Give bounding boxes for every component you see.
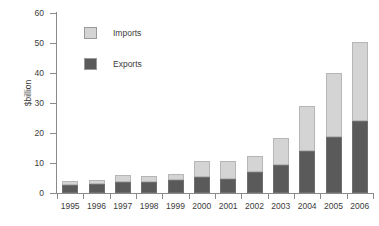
- bar-segment-exports: [141, 182, 157, 193]
- bar-group: [168, 174, 184, 194]
- bar-segment-exports: [326, 137, 342, 193]
- bar-group: [141, 176, 157, 193]
- x-axis-tick: [294, 193, 295, 199]
- bar-segment-exports: [352, 121, 368, 193]
- x-axis-tick: [162, 193, 163, 199]
- bar-segment-imports: [299, 106, 315, 151]
- y-axis-tick: [50, 103, 57, 104]
- bar-segment-exports: [62, 185, 78, 193]
- bar-segment-imports: [168, 174, 184, 181]
- y-axis-tick-label: 50: [18, 39, 44, 48]
- y-axis-tick-label: 60: [18, 9, 44, 18]
- x-axis-tick: [320, 193, 321, 199]
- y-axis-tick: [50, 133, 57, 134]
- bar-segment-imports: [273, 138, 289, 165]
- x-axis-tick: [83, 193, 84, 199]
- bar-segment-exports: [168, 180, 184, 193]
- bar-group: [62, 181, 78, 193]
- x-axis-tick: [268, 193, 269, 199]
- x-axis-tick: [110, 193, 111, 199]
- bar-segment-exports: [247, 172, 263, 193]
- y-axis-tick: [50, 163, 57, 164]
- y-axis-tick: [50, 13, 57, 14]
- x-axis-tick: [215, 193, 216, 199]
- y-axis-tick-label: 10: [18, 159, 44, 168]
- bar-segment-imports: [194, 161, 210, 177]
- bar-segment-exports: [220, 179, 236, 193]
- bar-group: [115, 175, 131, 193]
- y-axis-tick-label: 20: [18, 129, 44, 138]
- bar-segment-exports: [299, 151, 315, 193]
- legend-label: Exports: [113, 59, 142, 69]
- stacked-bar-chart: 0102030405060 19951996199719981999200020…: [0, 0, 379, 226]
- bar-segment-imports: [115, 175, 131, 182]
- bar-segment-exports: [115, 182, 131, 193]
- bar-segment-exports: [194, 177, 210, 193]
- bar-group: [220, 161, 236, 193]
- y-axis-tick: [50, 193, 57, 194]
- bar-group: [89, 180, 105, 193]
- bar-segment-imports: [352, 42, 368, 122]
- x-axis-tick: [136, 193, 137, 199]
- bar-segment-exports: [89, 184, 105, 193]
- bar-group: [326, 73, 342, 193]
- bar-group: [273, 138, 289, 193]
- y-axis-title: $billion: [23, 63, 33, 123]
- x-axis-tick: [373, 193, 374, 199]
- legend-label: Imports: [113, 28, 141, 38]
- x-axis-tick: [57, 193, 58, 199]
- bar-group: [352, 42, 368, 194]
- x-axis-tick-label: 2006: [345, 202, 375, 211]
- bar-segment-exports: [273, 165, 289, 193]
- x-axis-tick: [347, 193, 348, 199]
- y-axis-tick-label: 0: [18, 189, 44, 198]
- x-axis-tick: [241, 193, 242, 199]
- bar-segment-imports: [247, 156, 263, 172]
- legend-swatch: [84, 58, 97, 70]
- y-axis-tick: [50, 43, 57, 44]
- bar-segment-imports: [220, 161, 236, 178]
- x-axis-tick: [189, 193, 190, 199]
- bar-segment-imports: [326, 73, 342, 137]
- bar-group: [299, 106, 315, 193]
- y-axis-tick: [50, 73, 57, 74]
- bar-group: [194, 161, 210, 193]
- legend-swatch: [84, 27, 97, 39]
- bar-group: [247, 156, 263, 193]
